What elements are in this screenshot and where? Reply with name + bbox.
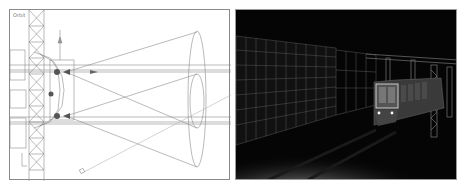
spotlight-icon — [49, 69, 99, 119]
truss-tower-icon — [29, 10, 44, 181]
wireframe-viewport[interactable]: Orbit — [9, 9, 230, 180]
rendered-viewport[interactable] — [235, 9, 457, 180]
wireframe-scene — [10, 10, 231, 181]
rendered-scene — [236, 10, 457, 180]
